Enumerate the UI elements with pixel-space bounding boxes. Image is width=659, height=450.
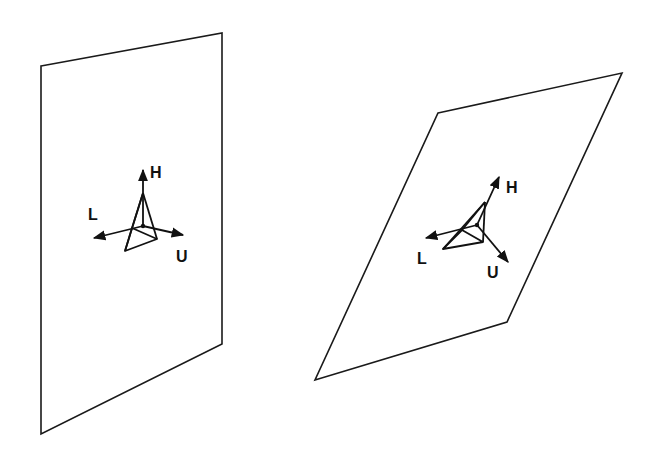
tilted-plane-panel: H L U xyxy=(315,73,622,380)
h-axis-label: H xyxy=(150,164,162,181)
l-axis-arrow xyxy=(426,225,477,238)
h-axis-arrow xyxy=(477,177,499,225)
coordinate-frame-left: H L U xyxy=(88,164,188,265)
diagram-canvas: H L U H L U xyxy=(0,0,659,450)
frame-edge xyxy=(125,193,143,251)
u-axis-arrow xyxy=(477,225,508,262)
l-axis-label: L xyxy=(88,206,98,223)
u-axis-label: U xyxy=(487,264,499,281)
l-axis-arrow xyxy=(94,226,143,238)
coordinate-frame-right: H L U xyxy=(417,177,518,281)
h-axis-label: H xyxy=(506,179,518,196)
u-axis-label: U xyxy=(176,248,188,265)
vertical-plane-outline xyxy=(41,33,222,434)
vertical-plane-panel: H L U xyxy=(41,33,222,434)
frame-origin-dot xyxy=(475,223,479,227)
frame-origin-dot xyxy=(141,224,145,228)
l-axis-label: L xyxy=(417,250,427,267)
u-axis-arrow xyxy=(143,226,183,235)
frame-base-triangle xyxy=(125,228,157,251)
frame-edge xyxy=(143,193,157,239)
